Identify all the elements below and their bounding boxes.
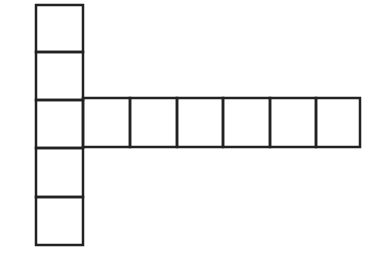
horizontal-cell-4 xyxy=(223,98,270,147)
vertical-cell-5 xyxy=(36,197,83,245)
horizontal-cell-1 xyxy=(83,98,130,147)
horizontal-cell-2 xyxy=(130,98,177,147)
t-shaped-grid-diagram xyxy=(0,0,387,255)
horizontal-cell-6 xyxy=(316,98,360,147)
vertical-cell-1 xyxy=(36,5,83,52)
horizontal-cell-3 xyxy=(177,98,223,147)
horizontal-cell-5 xyxy=(270,98,316,147)
vertical-cell-4 xyxy=(36,148,83,197)
vertical-cell-2 xyxy=(36,52,83,100)
vertical-cell-3 xyxy=(36,100,83,148)
